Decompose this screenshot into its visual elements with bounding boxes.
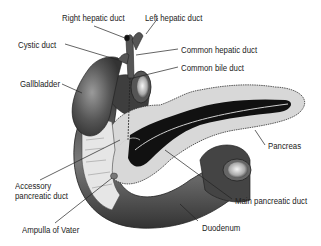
label-main-pancreatic-duct: Main pancreatic duct bbox=[235, 196, 307, 206]
label-right-hepatic-duct: Right hepatic duct bbox=[62, 13, 125, 23]
label-pancreas: Pancreas bbox=[268, 141, 301, 151]
label-common-bile-duct: Common bile duct bbox=[181, 63, 244, 73]
pancreas-anatomy-diagram: Right hepatic duct Left hepatic duct Cys… bbox=[0, 0, 321, 246]
anatomy-illustration bbox=[0, 0, 321, 246]
label-common-hepatic-duct: Common hepatic duct bbox=[181, 45, 257, 55]
label-ampulla-of-vater: Ampulla of Vater bbox=[22, 225, 79, 235]
label-duodenum: Duodenum bbox=[202, 223, 240, 233]
label-cystic-duct: Cystic duct bbox=[18, 40, 56, 50]
label-accessory-pancreatic-duct: Accessory pancreatic duct bbox=[15, 181, 68, 201]
label-gallbladder: Gallbladder bbox=[20, 79, 60, 89]
label-left-hepatic-duct: Left hepatic duct bbox=[145, 13, 202, 23]
